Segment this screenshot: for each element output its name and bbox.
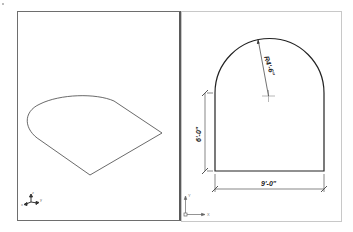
ucs-3d-icon [24,194,39,206]
ucs-x-label: x [21,202,23,207]
ucs-x-axis-label: X [207,212,210,217]
ucs-y-axis-label: Y [188,193,191,198]
height-dimension-text[interactable]: 6'-0" [195,126,202,142]
radius-dimension-text[interactable]: R4'-6" [263,55,276,77]
isometric-arch-outline[interactable] [27,96,162,175]
ucs-z-label: z [32,190,34,195]
ucs-2d-icon [184,196,205,216]
height-dimension[interactable] [202,90,213,174]
ucs-y-label: y [40,197,42,202]
drawing-canvas: z x y R4'-6" 6'-0" 9'-0" Y X [0,0,353,232]
width-dimension-text[interactable]: 9'-0" [261,180,277,187]
